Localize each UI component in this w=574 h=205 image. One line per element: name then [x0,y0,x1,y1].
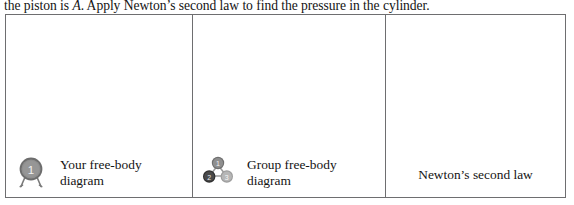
column-3-label: Newton’s second law [418,167,533,183]
svg-text:1: 1 [28,164,34,176]
problem-text-part-1: the piston is [4,0,72,13]
problem-statement-text: the piston is A. Apply Newton’s second l… [4,0,570,14]
column-2-footer: 1 2 3 Group free-body diagram [193,155,385,197]
column-group-free-body-diagram[interactable]: 1 2 3 Group free-body diagram [193,15,386,197]
problem-text-part-2: . Apply Newton’s second law to find the … [81,0,430,13]
column-2-label: Group free-body diagram [247,157,367,189]
variable-symbol-A: A [72,0,80,13]
svg-text:3: 3 [225,174,229,181]
single-person-badge-icon: 1 [14,155,48,189]
column-3-footer: Newton’s second law [386,167,565,197]
group-of-three-icon: 1 2 3 [201,155,235,185]
worksheet-table: 1 Your free-body diagram 1 [5,14,566,198]
column-1-footer: 1 Your free-body diagram [6,155,192,197]
svg-text:2: 2 [207,174,211,181]
svg-text:1: 1 [216,160,220,167]
column-your-free-body-diagram[interactable]: 1 Your free-body diagram [6,15,193,197]
column-newtons-second-law[interactable]: Newton’s second law [386,15,565,197]
column-1-label: Your free-body diagram [60,157,172,189]
